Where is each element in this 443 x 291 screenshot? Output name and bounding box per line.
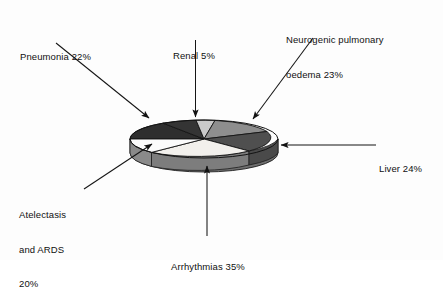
arrow-atelectasis — [84, 144, 152, 189]
label-renal: Renal 5% — [173, 27, 215, 85]
label-atelectasis-line-1: Atelectasis — [19, 209, 66, 221]
label-pneumonia-text: Pneumonia 22% — [20, 51, 91, 63]
label-neurogenic-line-2: oedema 23% — [286, 69, 384, 81]
label-neurogenic-line-1: Neurogenic pulmonary — [286, 34, 384, 46]
label-atelectasis-line-3: 20% — [19, 278, 66, 290]
label-arrhythmias-text: Arrhythmias 35% — [171, 261, 245, 273]
label-liver-text: Liver 24% — [379, 163, 422, 175]
label-arrhythmias: Arrhythmias 35% — [171, 238, 245, 291]
label-renal-text: Renal 5% — [173, 50, 215, 62]
label-liver: Liver 24% — [379, 140, 422, 198]
label-atelectasis-and-ards: Atelectasis and ARDS 20% — [19, 186, 66, 291]
pie-body — [130, 120, 278, 172]
label-atelectasis-line-2: and ARDS — [19, 244, 66, 256]
label-neurogenic-pulmonary-oedema: Neurogenic pulmonary oedema 23% — [286, 11, 384, 103]
label-pneumonia: Pneumonia 22% — [20, 28, 91, 86]
